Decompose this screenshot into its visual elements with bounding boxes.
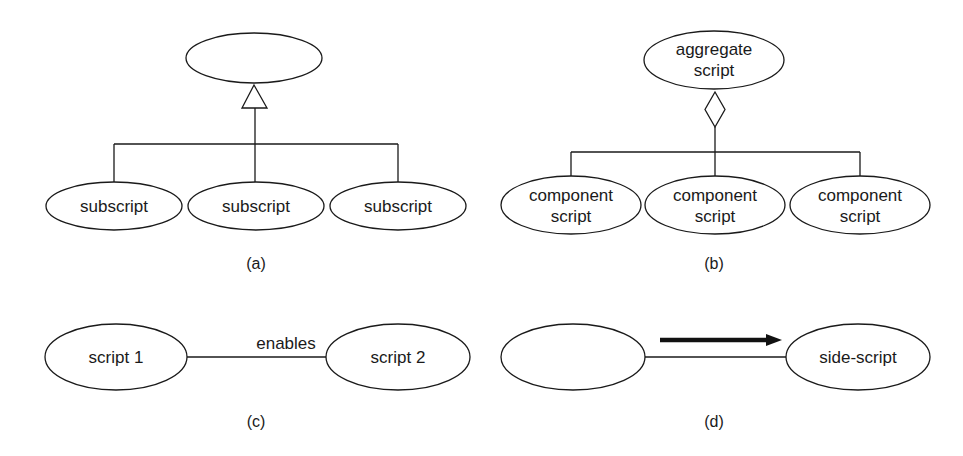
arrow-right-icon (766, 334, 782, 346)
caption-b: (b) (704, 255, 724, 272)
aggregate-label-line2: script (694, 61, 735, 80)
subscript-label: subscript (222, 197, 290, 216)
generalization-triangle-icon (242, 85, 267, 108)
caption-c: (c) (247, 413, 266, 430)
component-label-line1: component (673, 186, 757, 205)
subscript-label: subscript (364, 197, 432, 216)
script-2-label: script 2 (371, 348, 426, 367)
parent-script-node (186, 33, 322, 83)
caption-d: (d) (704, 413, 724, 430)
script-relations-diagram: subscript subscript subscript (a) aggreg… (0, 0, 963, 456)
component-label-line2: script (695, 207, 736, 226)
component-label-line1: component (818, 186, 902, 205)
enables-label: enables (256, 334, 316, 353)
script-1-label: script 1 (89, 348, 144, 367)
component-label-line1: component (529, 186, 613, 205)
component-label-line2: script (551, 207, 592, 226)
side-script-label: side-script (819, 348, 897, 367)
panel-c: script 1 enables script 2 (c) (45, 324, 470, 430)
component-label-line2: script (840, 207, 881, 226)
panel-b: aggregate script component script compon… (501, 31, 930, 272)
panel-a: subscript subscript subscript (a) (46, 33, 466, 272)
subscript-label: subscript (80, 197, 148, 216)
panel-d: side-script (d) (501, 324, 930, 430)
main-script-node (501, 324, 645, 390)
aggregation-diamond-icon (705, 92, 725, 127)
caption-a: (a) (246, 255, 266, 272)
aggregate-label-line1: aggregate (676, 40, 753, 59)
